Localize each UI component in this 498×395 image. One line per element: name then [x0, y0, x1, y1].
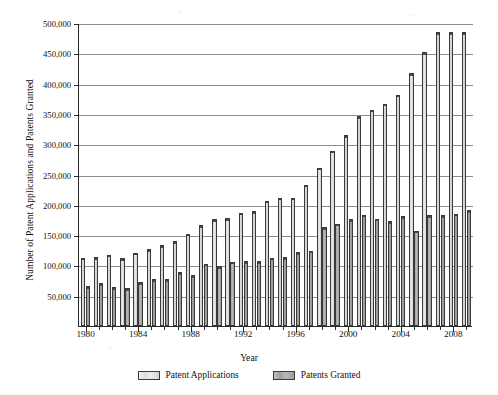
- y-axis-tick-label: 500,000: [43, 19, 71, 29]
- bar-cap: [213, 220, 215, 222]
- bar-cap: [284, 258, 286, 260]
- bar-cap: [258, 262, 260, 264]
- bar-cap: [437, 33, 439, 35]
- x-axis-tick-mark: [388, 326, 389, 330]
- bar-patents-granted-1985: [152, 279, 156, 326]
- bar-patents-granted-2001: [362, 215, 366, 327]
- bar-patent-applications-2000: [344, 135, 348, 326]
- bar-group-1999: [330, 23, 339, 326]
- bar-patent-applications-1990: [212, 219, 216, 326]
- bar-group-2008: [449, 23, 458, 326]
- bar-group-1980: [81, 23, 90, 326]
- bar-patent-applications-1995: [278, 198, 282, 326]
- bar-patent-applications-1996: [291, 198, 295, 326]
- bar-group-1992: [239, 23, 248, 326]
- bar-group-1997: [304, 23, 313, 326]
- x-axis-tick-mark: [217, 326, 218, 330]
- y-axis-tick-label: 350,000: [43, 110, 71, 120]
- bar-patent-applications-1992: [239, 213, 243, 326]
- x-axis-tick-mark: [427, 326, 428, 330]
- y-axis-tick-mark: [74, 206, 79, 207]
- bar-group-1982: [107, 23, 116, 326]
- bar-cap: [423, 53, 425, 55]
- bar-cap: [376, 220, 378, 222]
- bar-group-1984: [133, 23, 142, 326]
- bar-cap: [166, 280, 168, 282]
- bar-group-2003: [383, 23, 392, 326]
- y-axis-tick-mark: [74, 115, 79, 116]
- y-axis-tick-mark: [74, 145, 79, 146]
- y-axis-tick-mark: [74, 85, 79, 86]
- bar-cap: [187, 235, 189, 237]
- bar-patent-applications-1999: [330, 151, 334, 326]
- x-axis-tick-label: 1988: [181, 329, 199, 339]
- bar-group-1981: [94, 23, 103, 326]
- bar-cap: [450, 33, 452, 35]
- chart-legend: Patent Applications Patents Granted: [0, 370, 498, 380]
- x-axis-tick-mark: [125, 326, 126, 330]
- bar-cap: [463, 33, 465, 35]
- bar-group-1991: [225, 23, 234, 326]
- x-axis-tick-mark: [283, 326, 284, 330]
- bar-patent-applications-2001: [357, 116, 361, 326]
- bar-patent-applications-2002: [370, 110, 374, 326]
- bar-patents-granted-2006: [427, 215, 431, 326]
- bar-group-2002: [370, 23, 379, 326]
- y-axis-tick-mark: [74, 24, 79, 25]
- bar-cap: [358, 117, 360, 119]
- bar-patents-granted-2004: [401, 216, 405, 326]
- bar-patents-granted-1999: [335, 224, 339, 326]
- bar-cap: [134, 254, 136, 256]
- bar-patents-granted-1989: [204, 264, 208, 326]
- x-axis-tick-label: 1996: [287, 329, 305, 339]
- bar-cap: [231, 263, 233, 265]
- x-axis-tick-mark: [164, 326, 165, 330]
- bar-patent-applications-2004: [396, 95, 400, 326]
- bar-cap: [415, 232, 417, 234]
- bar-group-2006: [422, 23, 431, 326]
- bar-patent-applications-1988: [186, 234, 190, 326]
- bar-cap: [226, 219, 228, 221]
- y-axis-tick-label: 150,000: [43, 231, 71, 241]
- x-axis-tick-label: 2008: [444, 329, 462, 339]
- bar-cap: [87, 287, 89, 289]
- legend-item-patents-granted: Patents Granted: [273, 370, 361, 380]
- x-axis-tick-mark: [99, 326, 100, 330]
- bar-patent-applications-1994: [265, 201, 269, 326]
- bar-cap: [153, 280, 155, 282]
- patent-bar-chart-figure: Number of Patent Applications and Patent…: [0, 0, 498, 395]
- x-axis-tick-mark: [440, 326, 441, 330]
- bar-patents-granted-2007: [441, 215, 445, 326]
- y-axis-tick-label: 450,000: [43, 49, 71, 59]
- bar-group-1983: [120, 23, 129, 326]
- bar-patents-granted-1984: [138, 282, 142, 326]
- bar-patents-granted-1996: [296, 252, 300, 326]
- bar-patents-granted-1992: [244, 261, 248, 326]
- bar-cap: [148, 250, 150, 252]
- bar-patent-applications-2005: [409, 73, 413, 326]
- bar-patent-applications-2009: [462, 32, 466, 326]
- bar-patent-applications-1982: [107, 255, 111, 327]
- bar-patents-granted-1997: [309, 251, 313, 326]
- bar-cap: [240, 214, 242, 216]
- bar-cap: [310, 252, 312, 254]
- bar-patent-applications-1989: [199, 225, 203, 326]
- x-axis-tick-mark: [309, 326, 310, 330]
- bar-patent-applications-1980: [81, 258, 85, 326]
- bar-patent-applications-1981: [94, 257, 98, 326]
- bar-group-1986: [160, 23, 169, 326]
- bar-cap: [245, 262, 247, 264]
- y-axis-tick-mark: [74, 297, 79, 298]
- bar-patents-granted-1991: [230, 262, 234, 326]
- x-axis-tick-mark: [151, 326, 152, 330]
- bar-cap: [363, 216, 365, 218]
- y-axis-tick-label: 200,000: [43, 201, 71, 211]
- bar-group-2005: [409, 23, 418, 326]
- bar-patents-granted-2008: [454, 214, 458, 326]
- bar-cap: [266, 202, 268, 204]
- bar-group-1998: [317, 23, 326, 326]
- bar-cap: [205, 265, 207, 267]
- bar-patent-applications-2007: [436, 32, 440, 326]
- bar-cap: [297, 253, 299, 255]
- legend-item-patent-applications: Patent Applications: [138, 370, 239, 380]
